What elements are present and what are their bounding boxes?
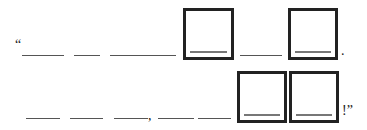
period: . [341, 44, 345, 58]
box-underline [295, 51, 331, 53]
blank-word[interactable] [114, 118, 148, 119]
blank-word[interactable] [110, 55, 176, 56]
blank-word[interactable] [22, 55, 64, 56]
blank-word[interactable] [70, 118, 103, 119]
blank-word[interactable] [158, 118, 194, 119]
box-underline [296, 114, 332, 116]
letter-box[interactable] [237, 71, 287, 123]
blank-word[interactable] [198, 118, 231, 119]
blank-word[interactable] [74, 55, 100, 56]
box-underline [190, 51, 227, 53]
exclamation-close-quote: !” [342, 104, 353, 118]
comma: , [148, 109, 152, 123]
letter-box[interactable] [289, 71, 339, 123]
blank-word[interactable] [240, 55, 282, 56]
box-underline [244, 114, 280, 116]
letter-box[interactable] [288, 8, 338, 60]
blank-word[interactable] [26, 118, 60, 119]
letter-box[interactable] [183, 8, 234, 60]
open-quote: “ [15, 38, 21, 52]
